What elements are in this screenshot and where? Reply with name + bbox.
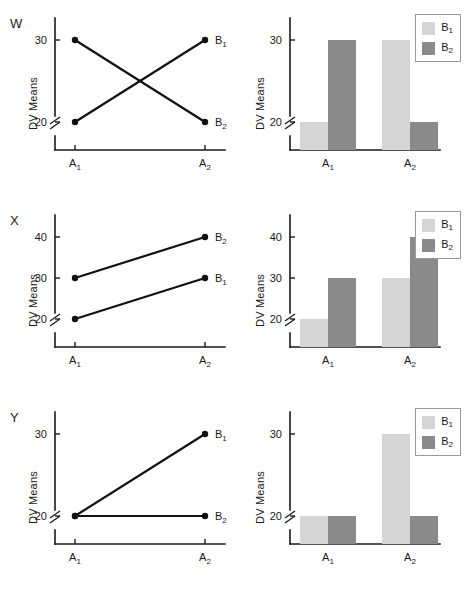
y-tick-label: 30 <box>270 34 282 46</box>
series-label-b2: B2 <box>215 231 227 246</box>
data-point <box>72 275 78 281</box>
x-tick-label: A2 <box>404 354 416 369</box>
x-tick-label: A1 <box>322 354 334 369</box>
panel-x-line: XDV Means203040A1A2B1B2 <box>0 197 232 394</box>
x-tick-label: A2 <box>404 551 416 566</box>
panel-w-bars: DV Means2030A1A2B1B2 <box>232 0 467 197</box>
x-tick-label: A1 <box>322 551 334 566</box>
legend-label-b1: B1 <box>441 22 453 35</box>
y-tick-label: 30 <box>35 34 47 46</box>
bar-b2-a1 <box>328 516 356 544</box>
panel-w-line: WDV Means2030A1A2B1B2 <box>0 0 232 197</box>
y-tick-label: 20 <box>270 116 282 128</box>
legend-label-b1: B1 <box>441 416 453 429</box>
legend-swatch-b2 <box>422 42 435 55</box>
y-tick-label: 20 <box>35 313 47 325</box>
x-tick-label: A1 <box>322 157 334 172</box>
bar-b2-a2 <box>410 516 438 544</box>
bar-b1-a2 <box>382 40 410 150</box>
x-tick-label: A1 <box>69 157 81 172</box>
series-line-b1 <box>75 278 205 319</box>
legend-label-b2: B2 <box>441 239 453 252</box>
legend-label-b1: B1 <box>441 219 453 232</box>
bar-b2-a1 <box>328 278 356 347</box>
data-point <box>72 119 78 125</box>
x-tick-label: A2 <box>199 551 211 566</box>
data-point <box>202 275 208 281</box>
legend-item-b1: B1 <box>422 414 453 430</box>
y-tick-label: 20 <box>270 510 282 522</box>
panel-x: XDV Means203040A1A2B1B2DV Means203040A1A… <box>0 197 467 394</box>
series-label-b1: B1 <box>215 272 227 287</box>
series-label-b2: B2 <box>215 510 227 525</box>
legend: B1B2 <box>415 211 461 259</box>
line-plot-w: 2030A1A2B1B2 <box>0 0 232 197</box>
data-point <box>72 37 78 43</box>
data-point <box>202 37 208 43</box>
legend: B1B2 <box>415 408 461 456</box>
line-plot-x: 203040A1A2B1B2 <box>0 197 232 394</box>
bar-b1-a1 <box>300 122 328 150</box>
panel-y-line: YDV Means2030A1A2B1B2 <box>0 394 232 591</box>
y-tick-label: 30 <box>35 428 47 440</box>
x-tick-label: A1 <box>69 354 81 369</box>
x-tick-label: A2 <box>404 157 416 172</box>
legend-item-b2: B2 <box>422 40 453 56</box>
data-point <box>72 316 78 322</box>
series-line-b1 <box>75 434 205 516</box>
data-point <box>202 431 208 437</box>
y-tick-label: 20 <box>270 313 282 325</box>
legend-label-b2: B2 <box>441 42 453 55</box>
bar-b1-a1 <box>300 516 328 544</box>
bar-b1-a2 <box>382 434 410 544</box>
y-tick-label: 40 <box>270 231 282 243</box>
legend: B1B2 <box>415 14 461 62</box>
y-tick-label: 30 <box>270 428 282 440</box>
y-tick-label: 30 <box>35 272 47 284</box>
series-label-b1: B1 <box>215 34 227 49</box>
series-label-b1: B1 <box>215 428 227 443</box>
series-line-b2 <box>75 237 205 278</box>
panel-y-bars: DV Means2030A1A2B1B2 <box>232 394 467 591</box>
data-point <box>202 513 208 519</box>
data-point <box>202 119 208 125</box>
data-point <box>202 234 208 240</box>
legend-swatch-b1 <box>422 22 435 35</box>
data-point <box>72 513 78 519</box>
legend-label-b2: B2 <box>441 436 453 449</box>
bar-b1-a1 <box>300 319 328 347</box>
x-tick-label: A2 <box>199 354 211 369</box>
legend-swatch-b1 <box>422 416 435 429</box>
y-tick-label: 20 <box>35 510 47 522</box>
legend-item-b2: B2 <box>422 434 453 450</box>
legend-item-b1: B1 <box>422 20 453 36</box>
y-tick-label: 40 <box>35 231 47 243</box>
legend-item-b1: B1 <box>422 217 453 233</box>
bar-b2-a2 <box>410 122 438 150</box>
x-tick-label: A2 <box>199 157 211 172</box>
legend-item-b2: B2 <box>422 237 453 253</box>
legend-swatch-b2 <box>422 239 435 252</box>
y-tick-label: 20 <box>35 116 47 128</box>
panel-x-bars: DV Means203040A1A2B1B2 <box>232 197 467 394</box>
x-tick-label: A1 <box>69 551 81 566</box>
bar-b2-a1 <box>328 40 356 150</box>
line-plot-y: 2030A1A2B1B2 <box>0 394 232 591</box>
panel-y: YDV Means2030A1A2B1B2DV Means2030A1A2B1B… <box>0 394 467 591</box>
bar-b1-a2 <box>382 278 410 347</box>
y-tick-label: 30 <box>270 272 282 284</box>
legend-swatch-b2 <box>422 436 435 449</box>
legend-swatch-b1 <box>422 219 435 232</box>
panel-w: WDV Means2030A1A2B1B2DV Means2030A1A2B1B… <box>0 0 467 197</box>
interaction-plots-figure: WDV Means2030A1A2B1B2DV Means2030A1A2B1B… <box>0 0 467 593</box>
series-label-b2: B2 <box>215 116 227 131</box>
